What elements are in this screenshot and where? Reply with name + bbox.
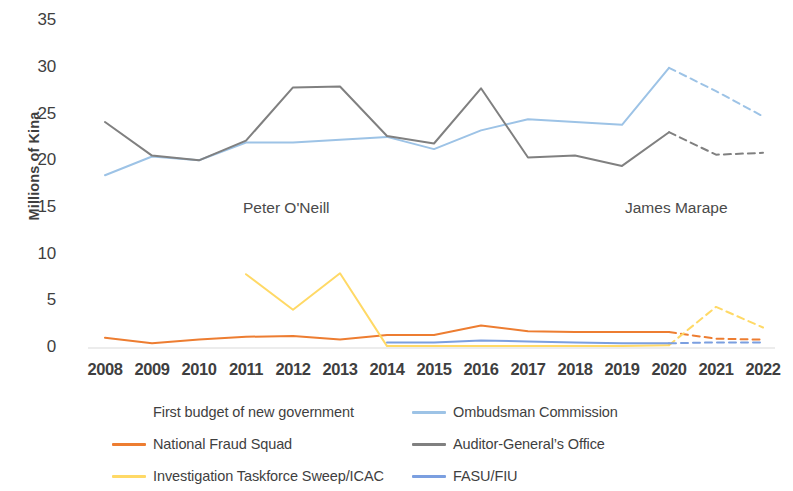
- chart-container: Millions of Kina 35302520151050 20082009…: [0, 0, 793, 491]
- annotation-james-marape: James Marape: [625, 199, 728, 217]
- legend-label: National Fraud Squad: [153, 436, 292, 452]
- legend-item-first-budget-of-new-government[interactable]: First budget of new government: [112, 396, 412, 428]
- legend-label: FASU/FIU: [453, 468, 517, 484]
- series-line-fasu-fiu: [387, 341, 669, 344]
- chart-legend: First budget of new governmentOmbudsman …: [112, 396, 772, 491]
- legend-row: National Fraud SquadAuditor-General’s Of…: [112, 428, 772, 460]
- legend-swatch-icon: [412, 443, 446, 446]
- legend-row: First budget of new governmentOmbudsman …: [112, 396, 772, 428]
- legend-swatch-icon: [412, 411, 446, 414]
- legend-swatch-icon: [112, 411, 146, 414]
- legend-item-national-fraud-squad[interactable]: National Fraud Squad: [112, 428, 412, 460]
- series-line-auditor-general-s-office: [105, 87, 669, 166]
- legend-swatch-icon: [112, 475, 146, 478]
- series-line-dashed-fasu-fiu: [669, 342, 763, 343]
- legend-label: Ombudsman Commission: [453, 404, 618, 420]
- series-line-dashed-auditor-general-s-office: [669, 132, 763, 155]
- legend-swatch-icon: [112, 443, 146, 446]
- series-line-dashed-ombudsman-commission: [669, 68, 763, 117]
- legend-item-ombudsman-commission[interactable]: Ombudsman Commission: [412, 396, 742, 428]
- legend-item-investigation-taskforce-sweep-icac[interactable]: Investigation Taskforce Sweep/ICAC: [112, 460, 412, 491]
- annotation-peter-oneill: Peter O'Neill: [243, 199, 330, 217]
- series-line-national-fraud-squad: [105, 326, 669, 344]
- legend-label: Investigation Taskforce Sweep/ICAC: [153, 468, 384, 484]
- legend-label: First budget of new government: [153, 404, 354, 420]
- series-line-investigation-taskforce-sweep-icac: [246, 273, 669, 346]
- legend-item-auditor-general-s-office[interactable]: Auditor-General’s Office: [412, 428, 742, 460]
- legend-swatch-icon: [412, 475, 446, 478]
- legend-item-fasu-fiu[interactable]: FASU/FIU: [412, 460, 742, 491]
- legend-label: Auditor-General’s Office: [453, 436, 605, 452]
- legend-row: Investigation Taskforce Sweep/ICACFASU/F…: [112, 460, 772, 491]
